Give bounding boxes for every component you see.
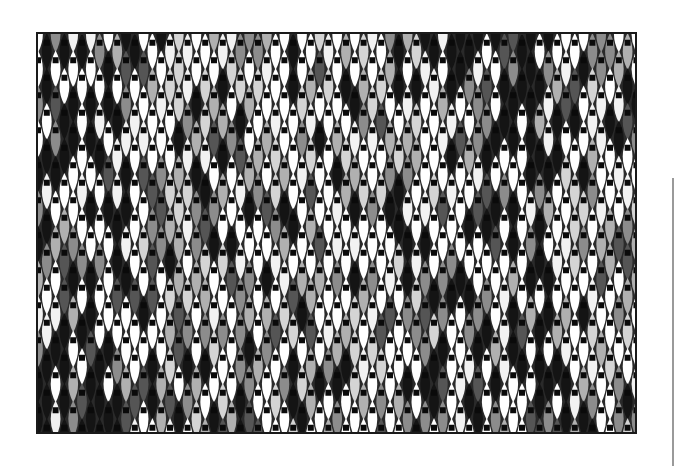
scale-line xyxy=(672,178,674,466)
pattern-svg xyxy=(38,34,635,432)
woven-rug-pattern xyxy=(36,32,637,434)
